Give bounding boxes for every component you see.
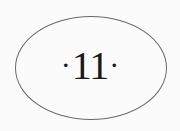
page-number: · 11 · (0, 0, 180, 131)
page-number-value: 11 (72, 46, 109, 86)
right-dot: · (109, 50, 119, 80)
left-dot: · (61, 50, 71, 80)
